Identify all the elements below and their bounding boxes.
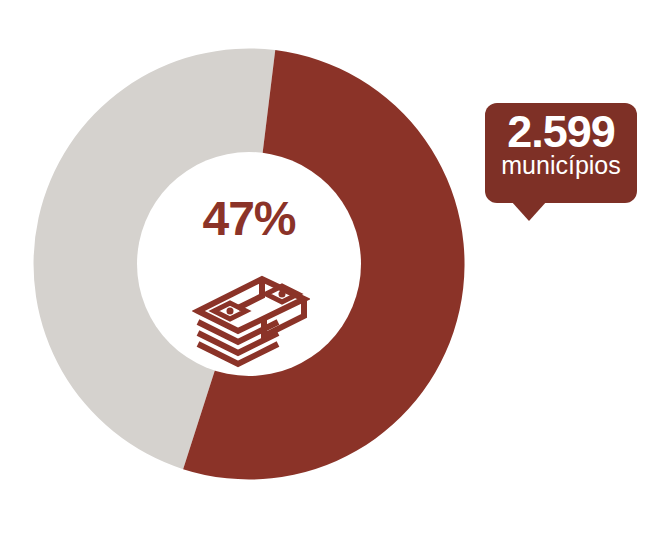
callout-body: 2.599 municípios: [485, 103, 637, 203]
callout-unit-label: municípios: [485, 153, 637, 179]
callout-badge[interactable]: 2.599 municípios: [485, 103, 637, 203]
money-right-bill-center: [279, 291, 286, 298]
callout-pointer-tail: [511, 201, 547, 221]
money-stack-icon: [192, 272, 310, 368]
infographic-canvas: 47%: [0, 0, 665, 536]
donut-chart-svg: [33, 48, 465, 480]
money-left-bill-center: [227, 308, 234, 315]
donut-center-percent: 47%: [0, 195, 498, 243]
donut-chart: [33, 48, 465, 480]
callout-number: 2.599: [485, 109, 637, 155]
